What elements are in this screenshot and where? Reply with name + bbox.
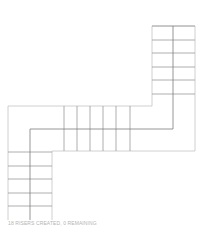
stair-walkline [30,26,173,220]
stair-plan-canvas[interactable] [0,0,204,242]
stair-boundary [8,26,195,220]
status-text: 18 RISERS CREATED, 0 REMAINING [8,220,97,226]
stair-treads [8,26,195,206]
stair-outline [8,26,195,220]
walkline-path [30,26,173,220]
